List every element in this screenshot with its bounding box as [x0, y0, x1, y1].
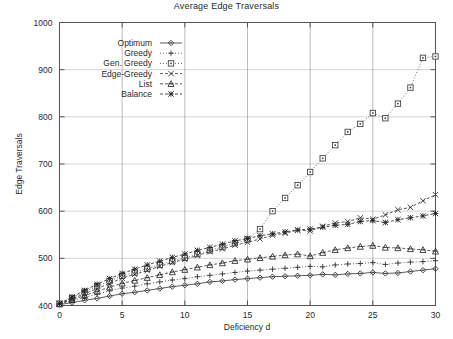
data-point-square	[333, 142, 338, 147]
data-point-star	[57, 301, 62, 306]
data-point-square	[168, 61, 173, 66]
data-point-square	[295, 183, 300, 188]
data-point-square	[420, 55, 425, 60]
data-point-square	[358, 121, 363, 126]
data-point-star	[232, 238, 237, 243]
data-point-plus	[333, 262, 338, 267]
svg-text:1000: 1000	[34, 18, 53, 28]
data-point-triangle	[345, 245, 351, 251]
data-point-plus	[408, 259, 413, 264]
data-point-star	[145, 262, 150, 267]
data-point-plus	[295, 265, 300, 270]
data-point-square	[370, 110, 375, 115]
data-point-star	[345, 222, 350, 227]
data-point-square	[257, 226, 262, 231]
data-point-star	[119, 271, 124, 276]
data-point-triangle	[169, 269, 175, 275]
data-point-star	[358, 219, 363, 224]
svg-text:900: 900	[38, 65, 52, 75]
data-point-plus	[245, 268, 250, 273]
data-point-star	[320, 225, 325, 230]
chart-legend: OptimumGreedyGen. GreedyEdge-GreedyListB…	[101, 38, 182, 99]
data-point-plus	[282, 266, 287, 271]
data-point-plus	[232, 270, 237, 275]
data-point-star	[168, 91, 173, 96]
data-point-square	[408, 85, 413, 90]
data-point-triangle	[132, 277, 138, 283]
data-point-plus	[383, 262, 388, 267]
data-point-triangle	[282, 252, 288, 258]
data-point-star	[257, 233, 262, 238]
data-point-plus	[145, 281, 150, 286]
svg-text:5: 5	[120, 310, 125, 320]
data-point-plus	[320, 264, 325, 269]
data-point-triangle	[357, 243, 363, 249]
data-point-star	[420, 213, 425, 218]
data-point-plus	[370, 260, 375, 265]
data-point-star	[395, 217, 400, 222]
svg-text:0: 0	[57, 310, 62, 320]
data-point-star	[207, 245, 212, 250]
data-point-cross	[420, 198, 425, 203]
data-point-square	[433, 54, 438, 59]
data-point-triangle	[295, 251, 301, 257]
data-point-plus	[182, 276, 187, 281]
data-point-plus	[157, 279, 162, 284]
data-point-square	[383, 116, 388, 121]
data-point-star	[370, 218, 375, 223]
data-point-triangle	[144, 275, 150, 281]
data-point-triangle	[219, 260, 225, 266]
data-point-plus	[270, 266, 275, 271]
data-point-star	[245, 236, 250, 241]
data-point-triangle	[407, 246, 413, 252]
data-point-star	[220, 241, 225, 246]
svg-text:20: 20	[305, 310, 315, 320]
data-point-star	[307, 226, 312, 231]
svg-text:15: 15	[243, 310, 253, 320]
data-point-star	[333, 223, 338, 228]
svg-text:10: 10	[180, 310, 190, 320]
data-point-plus	[257, 267, 262, 272]
data-point-star	[157, 258, 162, 263]
svg-text:700: 700	[38, 159, 52, 169]
data-point-star	[170, 255, 175, 260]
data-point-plus	[107, 288, 112, 293]
data-point-triangle	[194, 264, 200, 270]
data-point-triangle	[332, 247, 338, 253]
data-point-star	[408, 215, 413, 220]
legend-label-5: Balance	[121, 89, 152, 99]
data-point-plus	[132, 283, 137, 288]
data-point-cross	[408, 205, 413, 210]
data-point-square	[395, 101, 400, 106]
data-point-plus	[220, 271, 225, 276]
data-point-square	[282, 195, 287, 200]
data-point-square	[270, 208, 275, 213]
data-point-plus	[195, 274, 200, 279]
data-point-plus	[307, 264, 312, 269]
data-point-triangle	[395, 245, 401, 251]
data-point-triangle	[420, 247, 426, 253]
x-axis-label: Deficiency d	[224, 322, 271, 332]
svg-text:500: 500	[38, 253, 52, 263]
data-point-triangle	[168, 81, 174, 87]
data-point-square	[345, 129, 350, 134]
svg-text:600: 600	[38, 206, 52, 216]
data-point-triangle	[157, 272, 163, 278]
data-point-square	[320, 156, 325, 161]
chart-container: Average Edge Traversals 4005006007008009…	[0, 0, 453, 339]
chart-plot: 4005006007008009001000051015202530 Optim…	[0, 0, 453, 339]
data-point-star	[282, 229, 287, 234]
data-point-plus	[207, 273, 212, 278]
data-point-star	[433, 211, 438, 216]
data-point-star	[94, 282, 99, 287]
data-point-triangle	[382, 244, 388, 250]
data-point-plus	[170, 277, 175, 282]
data-point-plus	[168, 51, 173, 56]
legend-label-4: List	[139, 79, 153, 89]
data-point-star	[82, 288, 87, 293]
data-point-plus	[420, 259, 425, 264]
y-axis-label: Edge Traversals	[14, 133, 24, 194]
svg-text:800: 800	[38, 112, 52, 122]
data-point-star	[69, 294, 74, 299]
tick-labels: 4005006007008009001000051015202530	[34, 18, 441, 320]
